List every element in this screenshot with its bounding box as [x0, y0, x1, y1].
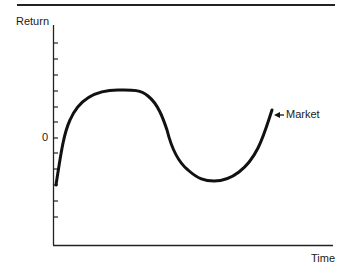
- series-label-market: Market: [286, 108, 320, 120]
- y-zero-tick-label: 0: [42, 131, 48, 143]
- arrow-icon: [274, 112, 284, 118]
- chart-canvas: [0, 0, 350, 272]
- market-curve: [56, 90, 272, 185]
- x-axis-label: Time: [311, 252, 335, 264]
- y-axis-label: Return: [16, 15, 49, 27]
